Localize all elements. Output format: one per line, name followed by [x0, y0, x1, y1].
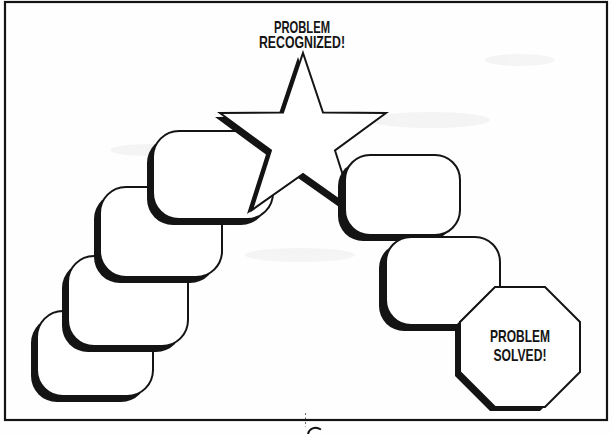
- workbook-page: PROBLEM RECOGNIZED! PROBLEM SOLVED!: [0, 0, 613, 434]
- start-label-line2: RECOGNIZED!: [259, 33, 345, 51]
- end-label-line2: SOLVED!: [494, 346, 547, 365]
- page-ornament: [306, 413, 322, 434]
- end-label-line1: PROBLEM: [490, 327, 550, 346]
- step-box-right-1: [338, 155, 460, 241]
